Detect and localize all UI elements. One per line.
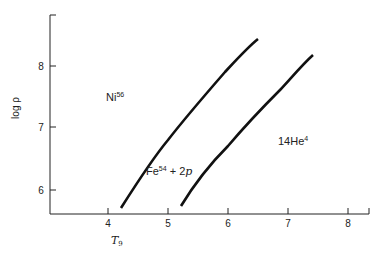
phase-diagram-chart: 6 7 8 4 5 6 7 8 T9 log ρ Ni56 Fe54 + 2p … xyxy=(0,0,383,253)
x-tick-label-7: 7 xyxy=(285,218,291,229)
region-label-fe54-2p: Fe54 + 2p xyxy=(146,165,192,178)
x-tick-label-5: 5 xyxy=(165,218,171,229)
y-tick-label-7: 7 xyxy=(38,122,44,133)
x-axis-title: T9 xyxy=(111,234,123,248)
curve-fe-he-boundary xyxy=(181,55,313,206)
y-axis-title: log ρ xyxy=(10,97,21,119)
region-label-ni56: Ni56 xyxy=(106,91,124,103)
axes xyxy=(50,15,369,214)
y-tick-label-6: 6 xyxy=(38,185,44,196)
x-tick-label-8: 8 xyxy=(345,218,351,229)
y-tick-label-8: 8 xyxy=(38,61,44,72)
curve-ni-fe-boundary xyxy=(121,39,258,208)
x-tick-label-6: 6 xyxy=(225,218,231,229)
x-tick-label-4: 4 xyxy=(105,218,111,229)
region-label-14he4: 14He4 xyxy=(278,135,308,147)
